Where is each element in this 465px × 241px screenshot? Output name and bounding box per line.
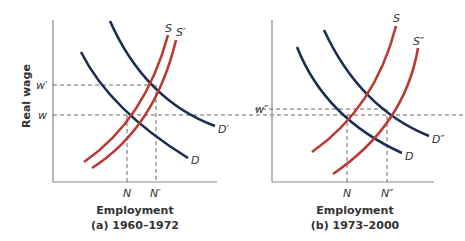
panel-a: S S′ D D′ w′ w N N′ Real wage Employment… bbox=[20, 20, 465, 232]
tick-w-double-prime: w″ bbox=[255, 103, 269, 116]
label-S-b: S bbox=[393, 12, 400, 25]
label-S-double-prime: S″ bbox=[413, 35, 425, 48]
tick-N-prime: N′ bbox=[150, 187, 161, 200]
panel-b: S S″ D D″ w″ N N″ Employment (b) 1973–20… bbox=[255, 12, 445, 232]
y-axis-label: Real wage bbox=[20, 64, 33, 128]
label-S: S bbox=[165, 22, 172, 35]
label-D-double-prime: D″ bbox=[432, 133, 445, 146]
label-S-prime: S′ bbox=[176, 26, 186, 39]
caption-a: (a) 1960–1972 bbox=[91, 219, 179, 232]
label-D-prime: D′ bbox=[218, 123, 229, 136]
label-D-b: D bbox=[405, 150, 413, 163]
tick-w: w bbox=[38, 109, 47, 122]
caption-b: (b) 1973–2000 bbox=[311, 219, 400, 232]
tick-N-double-prime: N″ bbox=[381, 187, 394, 200]
supply-curve-S-b bbox=[312, 26, 396, 152]
x-axis-label-a: Employment bbox=[96, 204, 173, 217]
tick-N: N bbox=[123, 187, 131, 200]
x-axis-label-b: Employment bbox=[316, 204, 393, 217]
tick-w-prime: w′ bbox=[36, 79, 48, 92]
demand-curve-D-b bbox=[297, 47, 402, 153]
labor-market-diagram: S S′ D D′ w′ w N N′ Real wage Employment… bbox=[0, 0, 465, 241]
label-D: D bbox=[191, 154, 199, 167]
demand-curve-D bbox=[81, 52, 188, 158]
supply-curve-S-prime bbox=[92, 40, 176, 168]
tick-N-b: N bbox=[343, 187, 351, 200]
